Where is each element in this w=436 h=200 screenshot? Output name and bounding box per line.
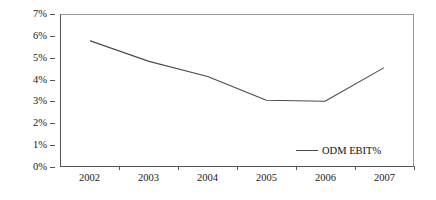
y-axis-tick-label: 1% bbox=[33, 140, 47, 150]
y-axis-tick-label: 7% bbox=[33, 9, 47, 19]
x-axis-tick-label: 2006 bbox=[315, 172, 336, 184]
x-axis-tick-label: 2003 bbox=[138, 172, 159, 184]
y-axis-tick-mark bbox=[50, 123, 55, 124]
legend-item-label: ODM EBIT% bbox=[322, 145, 381, 156]
y-axis-tick-mark bbox=[50, 101, 55, 102]
x-axis-tick-label: 2007 bbox=[374, 172, 395, 184]
y-axis-tick-mark bbox=[50, 145, 55, 146]
chart-container: 0%1%2%3%4%5%6%7% 20022003200420052006200… bbox=[0, 0, 436, 200]
y-axis-tick-label: 0% bbox=[33, 162, 47, 172]
x-axis-tick-label: 2005 bbox=[256, 172, 277, 184]
x-axis-tick-mark bbox=[178, 166, 179, 170]
x-axis-tick-mark bbox=[414, 166, 415, 170]
y-axis-tick-mark bbox=[50, 167, 55, 168]
x-axis-tick-mark bbox=[237, 166, 238, 170]
y-axis-tick-label: 2% bbox=[33, 118, 47, 128]
legend-line-swatch bbox=[296, 150, 318, 151]
series-line-group bbox=[61, 15, 413, 166]
y-axis-tick-mark bbox=[50, 36, 55, 37]
x-axis-tick-label: 2004 bbox=[197, 172, 218, 184]
y-axis: 0%1%2%3%4%5%6%7% bbox=[0, 0, 60, 200]
y-axis-tick-mark bbox=[50, 14, 55, 15]
y-axis-tick-label: 4% bbox=[33, 75, 47, 85]
y-axis-tick-mark bbox=[50, 80, 55, 81]
x-axis-tick-label: 2002 bbox=[79, 172, 100, 184]
y-axis-tick-label: 5% bbox=[33, 53, 47, 63]
legend: ODM EBIT% bbox=[296, 145, 381, 156]
x-axis-tick-mark bbox=[119, 166, 120, 170]
y-axis-tick-label: 6% bbox=[33, 31, 47, 41]
x-axis: 200220032004200520062007 bbox=[60, 170, 414, 200]
x-axis-tick-mark bbox=[355, 166, 356, 170]
y-axis-tick-mark bbox=[50, 58, 55, 59]
y-axis-tick-label: 3% bbox=[33, 96, 47, 106]
x-axis-tick-mark bbox=[296, 166, 297, 170]
series-line bbox=[90, 41, 383, 101]
